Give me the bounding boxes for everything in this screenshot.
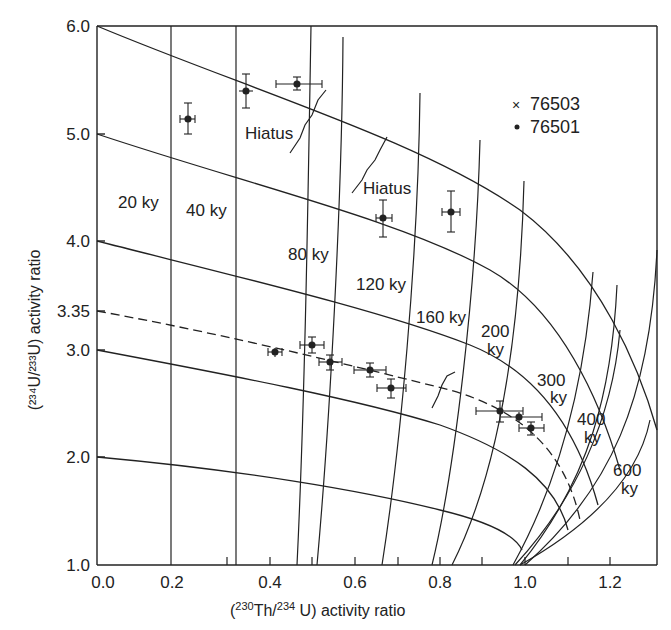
legend: × 76503 76501	[512, 94, 580, 137]
curve-labels: Hiatus Hiatus 20 ky 40 ky 80 ky 120 ky 1…	[118, 124, 641, 498]
label-200ky-b: ky	[487, 340, 505, 359]
data-point	[377, 379, 406, 398]
x-tick-0.6: 0.6	[343, 573, 367, 592]
data-point	[239, 74, 253, 108]
data-point	[354, 363, 386, 377]
hiatus-line-1	[290, 90, 326, 153]
label-80ky: 80 ky	[288, 245, 329, 264]
x-tick-1.0: 1.0	[513, 573, 537, 592]
y-tick-3.35: 3.35	[57, 302, 90, 321]
label-400ky-a: 400	[577, 410, 605, 429]
x-tick-labels: 0.0 0.2 0.4 0.6 0.8 1.0 1.2	[91, 573, 622, 592]
y-tick-5.0: 5.0	[66, 125, 90, 144]
label-120ky: 120 ky	[356, 275, 407, 294]
y-tick-1.0: 1.0	[66, 556, 90, 575]
label-300ky-b: ky	[550, 388, 568, 407]
label-hiatus-1: Hiatus	[245, 124, 293, 143]
legend-label-76501: 76501	[530, 117, 580, 137]
y-tick-labels: 6.0 5.0 4.0 3.35 3.0 2.0 1.0	[57, 17, 90, 575]
y-tick-3.0: 3.0	[66, 341, 90, 360]
curve-3.0	[97, 350, 568, 530]
y-axis-title: (²³⁴U/²³³U) activity ratio	[26, 250, 43, 411]
label-600ky-b: ky	[621, 479, 639, 498]
curve-6.0	[97, 26, 657, 430]
y-tick-6.0: 6.0	[66, 17, 90, 36]
label-200ky-a: 200	[481, 322, 509, 341]
data-point	[501, 412, 542, 422]
isochron-160ky	[382, 93, 420, 565]
x-tick-0.4: 0.4	[258, 573, 282, 592]
data-point	[376, 200, 392, 237]
x-axis-title: (230Th/234 U) activity ratio	[230, 600, 406, 619]
x-axis-ticks	[227, 557, 610, 565]
data-point	[442, 191, 460, 232]
data-point	[276, 77, 322, 90]
legend-symbol-dot	[515, 125, 520, 130]
y-tick-2.0: 2.0	[66, 448, 90, 467]
data-point	[180, 103, 195, 134]
label-400ky-b: ky	[584, 428, 602, 447]
x-tick-1.2: 1.2	[598, 573, 622, 592]
x-tick-0.8: 0.8	[428, 573, 452, 592]
data-point	[476, 401, 523, 422]
data-point	[319, 355, 342, 370]
data-points-76501	[180, 74, 544, 435]
x-tick-0.2: 0.2	[160, 573, 184, 592]
data-point	[300, 337, 324, 353]
legend-symbol-x: ×	[512, 97, 520, 113]
y-axis-ticks	[97, 134, 105, 457]
label-600ky-a: 600	[613, 461, 641, 480]
y-tick-4.0: 4.0	[66, 232, 90, 251]
label-40ky: 40 ky	[186, 201, 227, 220]
label-hiatus-2: Hiatus	[363, 179, 411, 198]
curve-2.0	[97, 457, 522, 550]
label-160ky: 160 ky	[416, 308, 467, 327]
uranium-series-evolution-chart: Hiatus Hiatus 20 ky 40 ky 80 ky 120 ky 1…	[0, 0, 671, 630]
data-point	[519, 422, 544, 435]
legend-label-76503: 76503	[530, 94, 580, 114]
hiatus-line-3	[432, 372, 455, 408]
isochron-lines	[171, 26, 657, 565]
label-20ky: 20 ky	[118, 193, 159, 212]
x-tick-0.0: 0.0	[91, 573, 115, 592]
isochron-200ky	[432, 140, 480, 565]
